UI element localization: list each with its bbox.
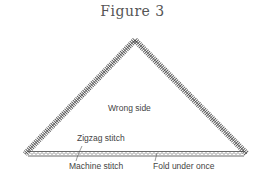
right-zigzag-edge (135, 40, 247, 154)
leader-zigzag-stitch (79, 146, 82, 153)
base-zigzag-stitch (30, 153, 242, 155)
label-fold-under-once: Fold under once (153, 161, 214, 171)
label-machine-stitch: Machine stitch (69, 161, 123, 171)
triangle-diagram (0, 0, 265, 184)
label-wrong-side: Wrong side (108, 103, 151, 113)
base-fold-edge (28, 152, 244, 157)
label-zigzag-stitch: Zigzag stitch (77, 133, 125, 143)
